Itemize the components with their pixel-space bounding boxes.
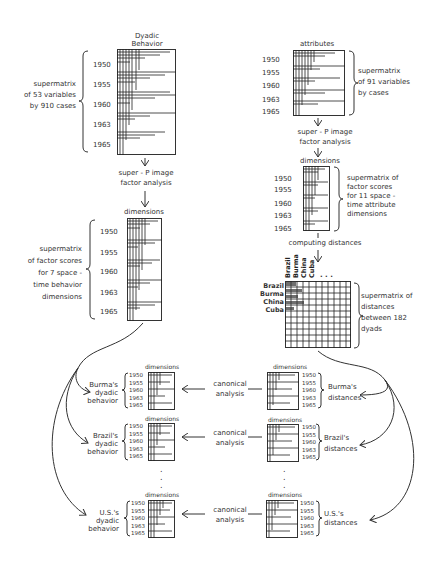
row-header-cuba: Cuba xyxy=(254,307,284,314)
us-canonical-label: canonical analysis xyxy=(200,505,260,525)
right-step1-label: super - P image factor analysis xyxy=(290,127,360,147)
brace xyxy=(349,51,358,115)
brazil-distances-label: Brazil's distances xyxy=(324,433,374,455)
burma-distances-label: Burma's distances xyxy=(328,382,378,404)
attribute-factor-scores-matrix xyxy=(303,166,330,231)
col-header-cuba: Cuba xyxy=(308,260,316,278)
left-vertical-ellipsis: ... xyxy=(160,466,163,490)
burma-canonical-label: canonical analysis xyxy=(200,379,260,399)
burma-right-years: 19501955196019631965 xyxy=(302,372,316,410)
right-dimensions-header: dimensions xyxy=(300,158,340,165)
burma-dyadic-label: Burma's dyadic behavior xyxy=(70,381,118,405)
left-dimensions-header: dimensions xyxy=(124,209,164,216)
brazil-distance-matrix xyxy=(267,424,299,462)
left-top-desc: supermatrix of 53 variables by 910 cases xyxy=(10,79,76,112)
brazil-right-dimensions: dimensions xyxy=(265,417,305,423)
us-right-years: 19501955196019631965 xyxy=(300,500,314,538)
year-label: 1965 xyxy=(100,308,118,316)
left-step1-label: super - P image factor analysis xyxy=(110,168,182,188)
brazil-behavior-matrix xyxy=(148,423,175,461)
year-label: 1950 xyxy=(274,175,292,183)
computing-distances-label: computing distances xyxy=(285,240,365,247)
brazil-dyadic-label: Brazil's dyadic behavior xyxy=(70,432,118,456)
year-label: 1960 xyxy=(100,268,118,276)
year-label: 1963 xyxy=(274,212,292,220)
brace xyxy=(79,51,88,152)
col-header-ellipsis: . . . xyxy=(320,272,333,279)
col-header-brazil: Brazil xyxy=(284,257,292,278)
brazil-left-dimensions: dimensions xyxy=(142,416,182,422)
brazil-right-years: 19501955196019631965 xyxy=(302,424,316,462)
us-left-years: 19501955196019631965 xyxy=(131,500,145,538)
behavior-factor-scores-matrix xyxy=(127,218,162,321)
right-vertical-ellipsis: ... xyxy=(283,466,286,490)
year-label: 1960 xyxy=(274,200,292,208)
year-label: 1963 xyxy=(100,289,118,297)
brazil-canonical-label: canonical analysis xyxy=(200,428,260,448)
year-label: 1960 xyxy=(93,101,111,109)
right-factor-desc: supermatrix of factor scores for 11 spac… xyxy=(347,174,427,219)
burma-left-years: 19501955196019631965 xyxy=(129,372,143,410)
row-header-brazil: Brazil xyxy=(254,283,284,290)
year-label: 1955 xyxy=(274,186,292,194)
brace xyxy=(334,167,343,231)
row-header-burma: Burma xyxy=(254,291,284,298)
us-behavior-matrix xyxy=(148,500,175,538)
dyadic-behavior-supermatrix xyxy=(117,49,176,155)
us-distances-label: U.S.'s distances xyxy=(324,510,374,528)
attributes-header: attributes xyxy=(292,41,342,48)
us-left-dimensions: dimensions xyxy=(142,492,182,498)
burma-right-dimensions: dimensions xyxy=(270,364,310,370)
year-label: 1960 xyxy=(262,82,280,90)
left-factor-desc: supermatrix of factor scores for 7 space… xyxy=(8,243,82,303)
year-label: 1955 xyxy=(100,249,118,257)
year-label: 1955 xyxy=(93,81,111,89)
burma-behavior-matrix xyxy=(148,372,175,410)
attributes-supermatrix xyxy=(293,50,345,116)
year-label: 1963 xyxy=(262,96,280,104)
year-label: 1950 xyxy=(100,228,118,236)
year-label: 1950 xyxy=(262,56,280,64)
year-label: 1963 xyxy=(93,121,111,129)
brace xyxy=(86,220,95,319)
year-label: 1965 xyxy=(262,108,280,116)
year-label: 1965 xyxy=(93,141,111,149)
dyadic-header-line1: Dyadic xyxy=(122,33,172,40)
col-header-china: China xyxy=(300,257,308,278)
right-top-desc: supermatrix of 91 variables by cases xyxy=(358,66,430,99)
burma-distance-matrix xyxy=(267,372,299,410)
us-right-dimensions: dimensions xyxy=(265,492,305,498)
year-label: 1950 xyxy=(93,61,111,69)
distances-supermatrix xyxy=(285,281,351,348)
us-dyadic-label: U.S.'s dyadic behavior xyxy=(70,509,119,533)
burma-left-dimensions: dimensions xyxy=(142,364,182,370)
us-distance-matrix xyxy=(266,500,298,538)
brazil-left-years: 19501955196019631965 xyxy=(129,423,143,461)
year-label: 1965 xyxy=(274,225,292,233)
dyadic-header-line2: Behavior xyxy=(122,41,172,48)
row-header-china: China xyxy=(254,299,284,306)
distance-desc: supermatrix of distances between 182 dya… xyxy=(361,291,433,335)
year-label: 1955 xyxy=(262,69,280,77)
col-header-burma: Burma xyxy=(292,254,300,278)
